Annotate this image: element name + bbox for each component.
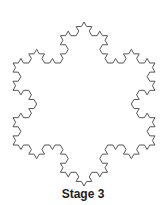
snowflake-outline bbox=[13, 22, 155, 186]
figure-caption: Stage 3 bbox=[0, 187, 166, 201]
koch-snowflake bbox=[0, 0, 166, 205]
